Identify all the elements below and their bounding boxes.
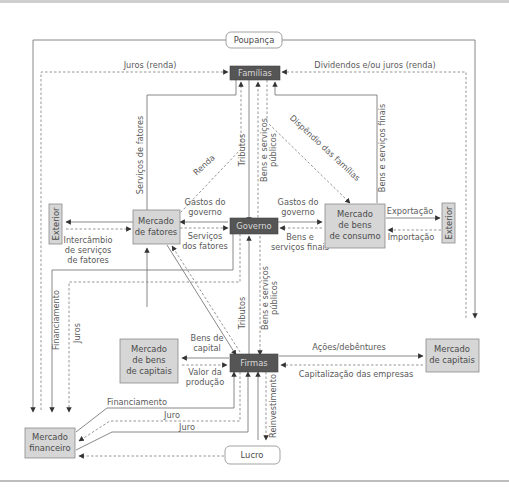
label-bens-publicos-top-2: públicos [268,133,278,167]
label-renda: Renda [191,152,217,177]
node-mercado-bens-consumo-label-2: de bens [338,220,371,230]
label-reinvestimento: Reinvestimento [268,374,278,438]
node-mercado-capitais-label-1: Mercado [434,344,470,354]
label-servicos-dos-fatores-1: Serviços [188,231,223,241]
node-governo: Governo [230,218,278,234]
node-poupanca: Poupança [226,32,282,48]
label-juro-2: Juro [178,422,195,432]
label-bens-publicos-bottom-2: públicos [269,281,279,315]
node-mercado-bens-capitais-label-3: de capitais [126,366,172,376]
flow-exportacao: Exportação [386,206,440,218]
node-familias: Famílias [230,66,280,80]
label-bens-servicos-finais-2: serviços finais [271,242,329,252]
label-capitalizacao: Capitalização das empresas [299,369,414,379]
node-mercado-bens-capitais: Mercado de bens de capitais [120,339,178,383]
node-exterior-left-label: Exterior [51,207,61,241]
node-lucro-label: Lucro [241,450,264,460]
flow-importacao: Importação [388,230,441,242]
label-tributos-bottom: Tributos [237,297,247,330]
node-lucro: Lucro [225,446,280,464]
label-gastos-governo-left-1: Gastos do [185,197,226,207]
label-dividendos: Dividendos e/ou juros (renda) [314,60,435,70]
node-mercado-bens-consumo-label-1: Mercado [337,209,373,219]
node-mercado-fatores: Mercado de fatores [133,210,180,244]
node-firmas-label: Firmas [240,358,267,368]
label-intercambio-2: de serviços [65,245,111,255]
label-financiamento: Financiamento [107,397,167,407]
node-mercado-financeiro-label-1: Mercado [32,432,68,442]
label-intercambio-1: Intercâmbio [63,235,112,245]
flow-reinvestimento: Reinvestimento [258,372,278,440]
label-valor-producao-1: Valor da [188,367,221,377]
label-acoes-debentures: Ações/debêntures [312,342,386,352]
label-juro-1: Juro [163,410,180,420]
node-mercado-bens-capitais-label-2: de bens [132,355,165,365]
node-exterior-left: Exterior [49,204,62,244]
node-mercado-bens-capitais-label-1: Mercado [131,344,167,354]
flow-tributos-top: Tributos [237,80,249,222]
flow-bens-servicos-finais: Bens e serviços finais [271,228,329,252]
flow-dispendio: Dispêndio das famílias [267,80,362,203]
flow-bens-publicos-bottom: Bens e serviços públicos [260,236,279,355]
label-exportacao: Exportação [387,206,433,216]
label-gastos-governo-right-1: Gastos do [278,197,319,207]
label-dispendio: Dispêndio das famílias [288,113,362,183]
label-bens-servicos-finais-vert: Bens e serviços finais [377,104,387,192]
flow-servicos-dos-fatores: Serviços dos fatores [180,228,228,251]
label-servicos-dos-fatores-2: dos fatores [182,241,228,251]
label-tributos-top: Tributos [237,134,247,167]
node-firmas: Firmas [230,354,278,372]
node-exterior-right-label: Exterior [444,206,454,240]
node-mercado-bens-consumo-label-3: de consumo [329,231,380,241]
flow-capitalizacao: Capitalização das empresas [281,365,423,379]
node-mercado-financeiro: Mercado financeiro [25,428,75,458]
node-poupanca-label: Poupança [234,35,275,45]
label-gastos-governo-left-2: governo [188,207,222,217]
label-juros-renda: Juros (renda) [123,60,177,70]
node-governo-label: Governo [236,221,271,231]
label-importacao: Importação [388,232,435,242]
flow-valor-producao: Valor da produção [182,365,227,387]
label-gastos-governo-right-2: governo [281,207,315,217]
label-servicos-fatores: Serviços de fatores [135,116,145,195]
label-bens-servicos-finais-1: Bens e [286,232,314,242]
node-mercado-fatores-label-2: de fatores [135,227,177,237]
node-exterior-right: Exterior [442,203,455,243]
flow-dividendos: Dividendos e/ou juros (renda) [282,60,466,318]
node-mercado-bens-consumo: Mercado de bens de consumo [325,204,385,248]
label-juros-vert: Juros [72,323,82,344]
label-intercambio-3: de fatores [67,255,108,265]
flow-acoes-debentures: Ações/debêntures [279,342,423,356]
circular-flow-diagram: Juros (renda) Dividendos e/ou juros (ren… [0,0,509,489]
flow-gastos-governo-right: Gastos do governo [278,197,322,222]
node-mercado-financeiro-label-2: financeiro [29,443,71,453]
flow-intercambio: Intercâmbio de serviços de fatores [63,222,133,265]
flow-bens-publicos-top: Bens e serviços públicos [258,82,278,222]
node-familias-label: Famílias [238,68,272,78]
flow-bens-de-capital: Bens de capital [182,333,229,358]
node-mercado-capitais: Mercado de capitais [426,339,479,372]
flow-tributos-bottom: Tributos [237,236,249,355]
label-financiamento-vert: Financiamento [51,290,61,350]
node-mercado-capitais-label-2: de capitais [429,355,475,365]
flow-gastos-governo-left: Gastos do governo [180,197,228,222]
label-valor-producao-2: produção [186,377,224,387]
node-mercado-fatores-label-1: Mercado [138,216,174,226]
label-bens-de-capital-2: capital [193,343,221,353]
label-bens-de-capital-1: Bens de [191,333,224,343]
